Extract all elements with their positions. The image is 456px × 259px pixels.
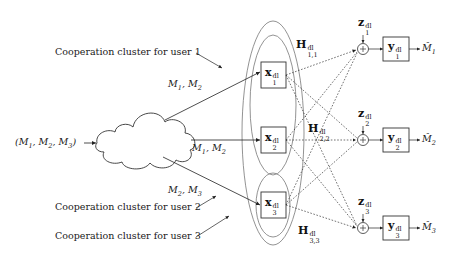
transmitter-label-1: xdl1: [265, 66, 279, 87]
transmitter-label-2: xdl2: [265, 131, 279, 152]
route-label-3: M2, M3: [168, 184, 202, 198]
cluster-label-user3: Cooperation cluster for user 3: [55, 230, 201, 241]
noise-label-1: zdl1: [358, 16, 372, 37]
noise-label-3: zdl3: [358, 195, 372, 216]
route-label-2: M1, M2: [192, 142, 226, 156]
input-label: (M1, M2, M3): [15, 136, 76, 150]
cluster-ellipse-user1: [250, 35, 296, 175]
output-label-3: M̂3: [422, 221, 436, 235]
channel-label-33: Hdl3,3: [298, 224, 320, 245]
receiver-label-1: ydl1: [388, 40, 402, 61]
cluster-pointer-3: [196, 216, 229, 237]
cloud-icon: [96, 113, 195, 169]
receiver-label-2: ydl2: [388, 131, 402, 152]
route-label-1: M1, M2: [168, 78, 202, 92]
receiver-label-3: ydl3: [388, 219, 402, 240]
cluster-label-user2: Cooperation cluster for user 2: [55, 201, 201, 212]
channel-label-22: Hdl2,2: [308, 122, 330, 143]
transmitter-label-3: xdl3: [265, 196, 279, 217]
output-label-1: M̂1: [422, 42, 436, 56]
cluster-label-user1: Cooperation cluster for user 1: [55, 46, 201, 57]
output-label-2: M̂2: [422, 133, 436, 147]
channel-label-11: Hdl1,1: [296, 38, 318, 59]
noise-label-2: zdl2: [358, 107, 372, 128]
